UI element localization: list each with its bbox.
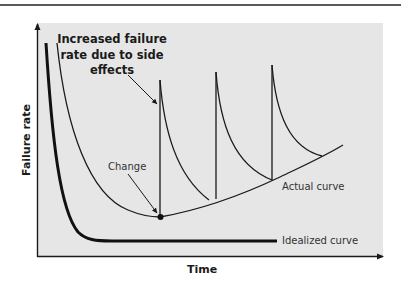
change-point-marker [158,214,164,220]
side-effects-annotation: Increased failure rate due to side effec… [57,32,167,79]
idealized-curve-label: Idealized curve [282,235,358,246]
x-axis-label: Time [187,263,217,276]
y-axis-label: Failure rate [20,104,33,176]
change-label: Change [108,161,146,172]
side-effects-annotation-line-1: Increased failure [57,32,167,48]
failure-rate-diagram: Failure rate Time Increased failure rate… [0,0,401,284]
actual-curve-label: Actual curve [282,181,345,192]
side-effects-annotation-line-3: effects [57,63,167,79]
side-effects-annotation-line-2: rate due to side [57,48,167,64]
